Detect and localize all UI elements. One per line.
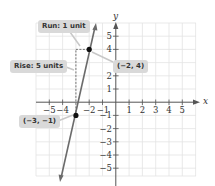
svg-text:−1: −1 bbox=[99, 110, 112, 120]
point-neg2-4 bbox=[87, 47, 92, 52]
svg-text:2: 2 bbox=[107, 71, 112, 81]
svg-text:−2: −2 bbox=[83, 105, 96, 115]
svg-text:−5: −5 bbox=[99, 163, 112, 173]
point-b-label: (−2, 4) bbox=[113, 60, 148, 73]
point-a-label: (−3, −1) bbox=[19, 115, 60, 128]
svg-text:4: 4 bbox=[166, 105, 171, 115]
svg-text:5: 5 bbox=[180, 105, 185, 115]
coordinate-plane: −5 −4 −2 −1 1 2 3 4 5 5 4 2 1 −1 −2 −3 −… bbox=[0, 0, 215, 186]
svg-text:−4: −4 bbox=[99, 150, 112, 160]
x-tick-labels: −5 −4 −2 −1 1 2 3 4 5 bbox=[43, 105, 185, 115]
run-callout: Run: 1 unit bbox=[38, 20, 90, 33]
line-arrow-down-icon bbox=[59, 174, 64, 182]
svg-text:1: 1 bbox=[126, 105, 131, 115]
svg-text:−2: −2 bbox=[99, 124, 112, 134]
svg-text:4: 4 bbox=[107, 44, 112, 54]
svg-text:3: 3 bbox=[153, 105, 158, 115]
x-axis-label: x bbox=[203, 96, 208, 106]
svg-text:1: 1 bbox=[107, 84, 112, 94]
svg-text:−3: −3 bbox=[99, 137, 112, 147]
svg-text:5: 5 bbox=[107, 31, 112, 41]
svg-text:2: 2 bbox=[140, 105, 145, 115]
svg-text:−5: −5 bbox=[43, 105, 56, 115]
y-axis-label: y bbox=[112, 11, 119, 21]
rise-callout: Rise: 5 units bbox=[10, 60, 67, 73]
svg-text:−4: −4 bbox=[56, 105, 69, 115]
line-arrow-up-icon bbox=[92, 23, 97, 31]
point-neg3-neg1 bbox=[73, 113, 78, 118]
x-axis-arrow-icon bbox=[193, 100, 200, 105]
